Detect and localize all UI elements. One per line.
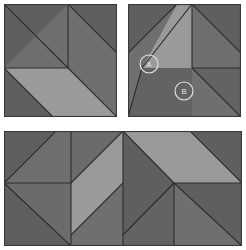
callout-a-label: A (146, 60, 151, 69)
bottom-block-svg (4, 131, 242, 246)
bottom-assembled-block (4, 131, 242, 246)
top-left-block-svg (4, 4, 117, 117)
top-right-block-svg: A B (128, 4, 241, 117)
top-left-block (4, 4, 117, 117)
quilt-diagram-canvas: A B (0, 0, 246, 250)
top-right-block: A B (128, 4, 241, 117)
callout-b-label: B (181, 87, 186, 96)
